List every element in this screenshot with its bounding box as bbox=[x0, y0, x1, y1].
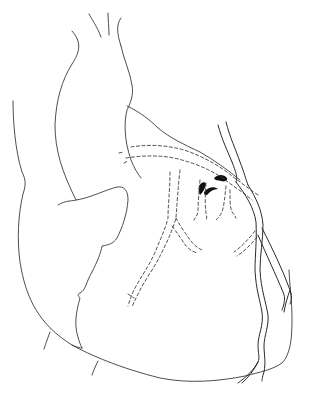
av-groove-tick-2 bbox=[92, 361, 98, 375]
diagonal-outer bbox=[262, 228, 292, 304]
dashed-stub-left-1 bbox=[119, 152, 124, 153]
branch-a-right bbox=[132, 170, 180, 307]
lad-upper-left bbox=[218, 125, 237, 182]
branch-a-fork-inner bbox=[172, 226, 197, 253]
brachiocephalic-stub bbox=[89, 14, 101, 37]
aorta-left-contour bbox=[55, 31, 79, 200]
branch-d-upper bbox=[234, 231, 255, 252]
great-vessels bbox=[55, 31, 240, 200]
lad-artery bbox=[218, 122, 268, 383]
lad-left bbox=[236, 182, 262, 383]
pulmonary-trunk-contour bbox=[127, 106, 240, 180]
dashed-stub-left-2 bbox=[124, 161, 128, 163]
hidden-vessels bbox=[119, 145, 258, 307]
carotid-stub bbox=[108, 13, 109, 35]
ostium-mark-3 bbox=[204, 187, 218, 195]
branch-c-right bbox=[230, 190, 236, 218]
branch-c-left bbox=[216, 186, 226, 220]
circumflex-upper bbox=[131, 145, 258, 195]
circumflex-lower bbox=[126, 156, 252, 200]
subclavian-stub bbox=[118, 18, 121, 46]
right-atrial-appendage bbox=[58, 187, 128, 348]
branch-a-fork bbox=[176, 218, 202, 250]
diagonal-tip bbox=[284, 290, 290, 312]
branch-a-left bbox=[128, 172, 170, 306]
aortic-arch-branches bbox=[89, 13, 121, 46]
svc-right-atrium-contour bbox=[13, 101, 292, 381]
branch-b-right bbox=[205, 183, 207, 220]
heart-diagram bbox=[0, 0, 309, 399]
branch-b-left bbox=[194, 180, 200, 220]
av-groove-tick-1 bbox=[44, 332, 50, 349]
diagonal-branch bbox=[258, 228, 292, 312]
